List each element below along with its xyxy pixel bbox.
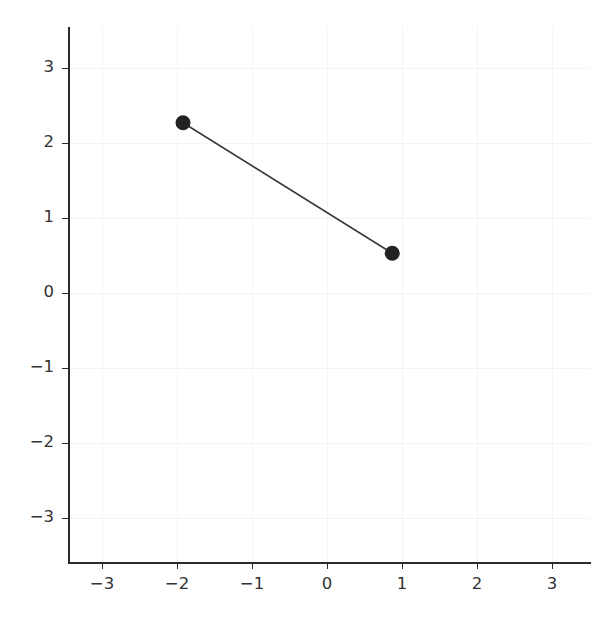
x-axis-tick-label: −1: [232, 574, 272, 593]
y-axis-spine: [68, 27, 70, 564]
gridline-vertical: [402, 27, 403, 563]
gridline-horizontal: [68, 368, 590, 369]
x-axis-tick: [177, 563, 178, 569]
y-axis-tick-label: −3: [10, 507, 54, 526]
gridline-horizontal: [68, 218, 590, 219]
gridline-horizontal: [68, 68, 590, 69]
y-axis-tick-label: 1: [10, 207, 54, 226]
x-axis-tick: [552, 563, 553, 569]
gridline-vertical: [177, 27, 178, 563]
y-axis-tick: [62, 68, 68, 69]
y-axis-tick-label: 0: [10, 282, 54, 301]
y-axis-tick: [62, 443, 68, 444]
x-axis-tick: [252, 563, 253, 569]
x-axis-tick: [477, 563, 478, 569]
x-axis-spine: [68, 562, 591, 564]
gridline-vertical: [477, 27, 478, 563]
y-axis-tick-label: −2: [10, 432, 54, 451]
y-axis-tick: [62, 368, 68, 369]
gridline-vertical: [102, 27, 103, 563]
gridline-horizontal: [68, 518, 590, 519]
gridline-vertical: [252, 27, 253, 563]
x-axis-tick-label: 2: [457, 574, 497, 593]
x-axis-tick-label: 1: [382, 574, 422, 593]
gridline-horizontal: [68, 143, 590, 144]
y-axis-tick: [62, 518, 68, 519]
x-axis-tick-label: −3: [82, 574, 122, 593]
y-axis-tick-label: 3: [10, 57, 54, 76]
chart-figure: −3−2−10123 −3−2−10123: [0, 0, 613, 625]
y-axis-tick: [62, 143, 68, 144]
gridline-vertical: [552, 27, 553, 563]
x-axis-tick: [102, 563, 103, 569]
x-axis-tick-label: 3: [532, 574, 572, 593]
x-axis-tick-label: −2: [157, 574, 197, 593]
y-axis-tick-label: 2: [10, 132, 54, 151]
gridline-vertical: [327, 27, 328, 563]
y-axis-tick-label: −1: [10, 357, 54, 376]
x-axis-tick-label: 0: [307, 574, 347, 593]
y-axis-tick: [62, 218, 68, 219]
gridline-horizontal: [68, 443, 590, 444]
plot-area: [68, 27, 590, 563]
x-axis-tick: [327, 563, 328, 569]
gridline-horizontal: [68, 293, 590, 294]
y-axis-tick: [62, 293, 68, 294]
x-axis-tick: [402, 563, 403, 569]
